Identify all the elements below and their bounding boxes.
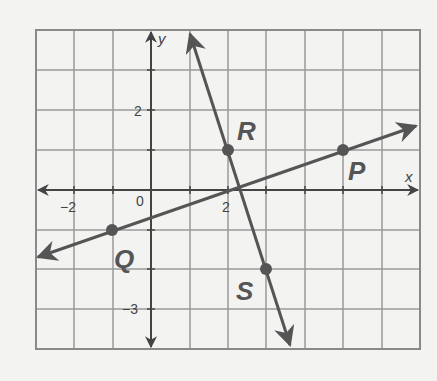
- x-axis-label: x: [404, 168, 413, 185]
- y-tick-label-neg3: −3: [122, 301, 138, 317]
- point-q: [106, 224, 118, 236]
- point-r: [222, 144, 234, 156]
- point-s-label: S: [236, 276, 254, 306]
- y-axis-label: y: [157, 30, 167, 47]
- point-p-label: P: [348, 156, 366, 186]
- point-q-label: Q: [114, 244, 134, 274]
- point-p: [337, 144, 349, 156]
- point-s: [260, 263, 272, 275]
- x-tick-label-neg2: −2: [60, 199, 76, 215]
- coordinate-graph: x y −2 0 2 2 −3 P Q R S: [0, 0, 437, 381]
- y-tick-label-2: 2: [134, 103, 142, 119]
- x-tick-label-2: 2: [222, 199, 230, 215]
- point-r-label: R: [237, 116, 256, 146]
- x-tick-label-0: 0: [136, 193, 144, 209]
